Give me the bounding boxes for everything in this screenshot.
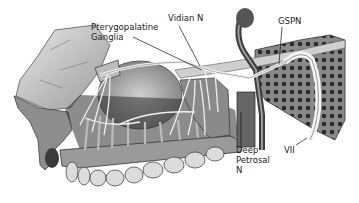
label-vidian-nerve: Vidian N [168, 13, 203, 23]
pterygoid-plate [237, 92, 255, 147]
anatomy-illustration [0, 0, 359, 203]
label-pterygopalatine-ganglia: Pterygopalatine Ganglia [91, 22, 158, 42]
label-vii: VII [284, 145, 295, 155]
label-gspn: GSPN [278, 16, 301, 26]
label-deep-petrosal-nerve: Deep Petrosal N [236, 145, 270, 175]
